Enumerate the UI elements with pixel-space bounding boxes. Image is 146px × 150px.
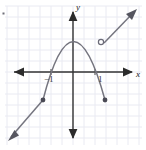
left-ray-arrowhead <box>8 130 19 141</box>
coordinate-plane: −1 1 y x <box>0 0 146 150</box>
y-axis-label: y <box>75 2 80 12</box>
right-ray <box>104 9 137 43</box>
tick-label-positive-one: 1 <box>98 74 103 84</box>
y-axis <box>69 11 78 139</box>
scan-speck <box>3 13 5 15</box>
closed-endpoint-left <box>41 98 46 103</box>
y-axis-top-arrowhead <box>69 11 78 21</box>
x-axis-label: x <box>135 69 140 79</box>
x-axis-left-arrowhead <box>14 68 24 77</box>
graph-figure: −1 1 y x <box>0 0 146 150</box>
open-endpoint-right-ray <box>98 39 103 44</box>
closed-endpoint-right <box>103 98 108 103</box>
tick-label-negative-one: −1 <box>44 74 54 84</box>
left-ray <box>8 100 43 141</box>
